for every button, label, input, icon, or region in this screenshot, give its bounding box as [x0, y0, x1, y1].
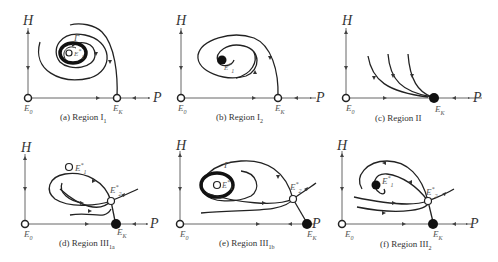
point-e0-label: E0 [180, 230, 189, 241]
point-ek-label: EK [307, 230, 317, 241]
point-e1-label: E*1 [74, 48, 84, 60]
phase-portrait-c [332, 0, 498, 131]
point-e0-label: E0 [24, 104, 33, 115]
cycle-label: Γ [74, 34, 79, 43]
point-e2-label: E*2 [290, 181, 302, 194]
point-ek-label: EK [275, 104, 285, 115]
x-axis-label: P [150, 217, 159, 231]
caption-e: (e) Region III1b [219, 238, 274, 250]
point-e1-label: E*1 [222, 179, 233, 191]
point-e1-label: E*1 [224, 62, 234, 74]
point-ek-label: EK [433, 230, 443, 241]
point-ek-label: EK [435, 105, 445, 116]
point-ek-label: EK [117, 228, 127, 239]
panel-region-i2: H P E0 EK E*1 (b) Region I2 [166, 0, 332, 131]
cycle-label: Γ [224, 161, 229, 170]
panel-region-iii1a: H P E0 EK E*1 E*2 (d) Region III1a [0, 131, 166, 262]
y-axis-label: H [21, 141, 31, 155]
point-e2-label: E*2 [110, 184, 122, 197]
x-axis-label: P [473, 91, 482, 105]
caption-b: (b) Region I2 [216, 112, 263, 124]
panel-region-iii2: H P E0 EK E*1 E*2 (f) Region III2 [332, 131, 498, 262]
point-e1-label: E*1 [75, 162, 87, 175]
y-axis-label: H [337, 139, 347, 153]
x-axis-label: P [316, 91, 325, 105]
point-ek-label: EK [113, 104, 123, 115]
caption-f: (f) Region III2 [380, 239, 431, 251]
caption-a: (a) Region I1 [60, 112, 106, 124]
point-e1-label: E*1 [382, 175, 394, 188]
panel-region-ii: H P E0 EK (c) Region II [332, 0, 498, 131]
point-e2-label: E*2 [426, 186, 438, 199]
panel-region-i1: H P E0 EK E*1 Γ (a) Region I1 [0, 0, 166, 131]
point-e0-label: E0 [346, 104, 355, 115]
point-e0-label: E0 [178, 104, 187, 115]
panel-region-iii1b: H P E0 EK E*1 E*2 Γ (e) Region III1b [166, 131, 332, 262]
y-axis-label: H [176, 14, 186, 28]
point-e0-label: E0 [24, 230, 33, 241]
point-e0-label: E0 [345, 230, 354, 241]
caption-c: (c) Region II [375, 113, 421, 125]
caption-d: (d) Region III1a [59, 238, 115, 250]
y-axis-label: H [23, 14, 33, 28]
x-axis-label: P [470, 217, 479, 231]
y-axis-label: H [342, 14, 352, 28]
y-axis-label: H [176, 139, 186, 153]
x-axis-label: P [153, 91, 162, 105]
x-axis-label: P [312, 217, 321, 231]
